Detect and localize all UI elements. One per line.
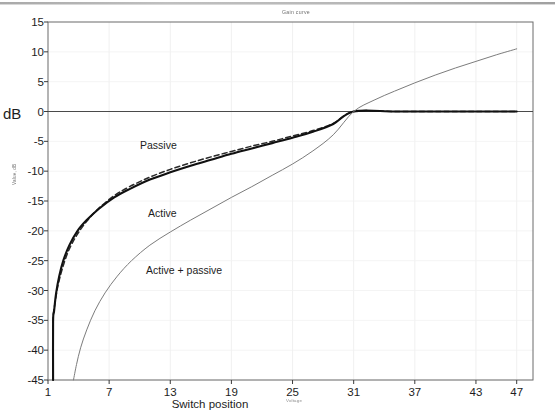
series-label-passive: Passive xyxy=(140,139,177,151)
series-curve-passive xyxy=(53,111,517,380)
series-label-active-plus-passive: Active + passive xyxy=(146,264,222,276)
series-curve-active-passive xyxy=(73,49,516,380)
series-label-active: Active xyxy=(148,207,177,219)
grid-lines xyxy=(48,22,533,380)
gain-curve-chart: Gain curve 151050-5-10-15-20-25-30-35-40… xyxy=(0,0,555,416)
series-curve-active xyxy=(53,111,517,380)
plot-canvas xyxy=(0,0,555,416)
